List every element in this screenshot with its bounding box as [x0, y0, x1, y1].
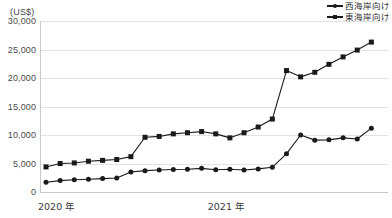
data-point-circle [355, 136, 360, 141]
data-point-circle [256, 166, 261, 171]
series-line [46, 42, 371, 167]
data-point-square [171, 131, 176, 136]
legend-item-east-coast[interactable]: 東海岸向け [327, 12, 390, 22]
y-axis-tick-label: 20,000 [8, 73, 36, 83]
legend-line-west-coast [327, 5, 343, 6]
series-lines [40, 21, 388, 192]
data-point-circle [171, 167, 176, 172]
plot-area [40, 21, 388, 192]
data-point-square [326, 62, 331, 67]
data-point-circle [114, 176, 119, 181]
data-point-circle [143, 168, 148, 173]
data-point-square [44, 164, 49, 169]
data-point-circle [44, 180, 49, 185]
data-point-circle [270, 165, 275, 170]
legend-label-east-coast: 東海岸向け [345, 12, 390, 22]
data-point-circle [157, 168, 162, 173]
data-point-square [298, 74, 303, 79]
y-axis-tick-label: 15,000 [8, 102, 36, 112]
data-point-square [72, 160, 77, 165]
data-point-square [185, 130, 190, 135]
data-point-square [86, 159, 91, 164]
data-point-circle [227, 167, 232, 172]
y-axis-tick-label: 0 [31, 187, 36, 197]
data-point-square [157, 134, 162, 139]
data-point-circle [100, 176, 105, 181]
data-point-square [143, 135, 148, 140]
data-point-circle [298, 133, 303, 138]
series-west-coast [44, 126, 374, 185]
data-point-square [355, 48, 360, 53]
legend-item-west-coast[interactable]: 西海岸向け [327, 1, 390, 11]
y-axis-tick-label: 25,000 [8, 45, 36, 55]
legend-line-east-coast [327, 16, 343, 17]
chart-legend: 西海岸向け 東海岸向け [327, 1, 390, 22]
data-point-square [242, 130, 247, 135]
data-point-square [284, 68, 289, 73]
data-point-circle [242, 168, 247, 173]
data-point-square [199, 129, 204, 134]
data-point-square [114, 157, 119, 162]
data-point-circle [199, 166, 204, 171]
data-point-square [341, 54, 346, 59]
data-point-circle [312, 138, 317, 143]
data-point-square [270, 117, 275, 122]
legend-label-west-coast: 西海岸向け [345, 1, 390, 11]
data-point-circle [284, 151, 289, 156]
data-point-circle [213, 167, 218, 172]
data-point-circle [72, 177, 77, 182]
data-point-circle [326, 137, 331, 142]
data-point-square [256, 125, 261, 130]
x-axis-tick-label: 2021 年 [208, 199, 245, 213]
data-point-circle [86, 177, 91, 182]
data-point-square [128, 154, 133, 159]
series-line [46, 128, 371, 182]
data-point-circle [185, 167, 190, 172]
y-axis-tick-labels: 30,00025,00020,00015,00010,0005,0000 [0, 0, 36, 218]
data-point-square [100, 158, 105, 163]
gridline [40, 192, 388, 193]
y-axis-tick-label: 30,000 [8, 16, 36, 26]
data-point-square [58, 161, 63, 166]
data-point-circle [128, 170, 133, 175]
data-point-circle [341, 135, 346, 140]
y-axis-tick-label: 10,000 [8, 130, 36, 140]
data-point-circle [58, 178, 63, 183]
data-point-square [213, 131, 218, 136]
data-point-square [227, 135, 232, 140]
y-axis-tick-label: 5,000 [13, 159, 36, 169]
series-east-coast [44, 40, 374, 170]
square-marker-icon [333, 15, 338, 20]
circle-marker-icon [333, 4, 338, 9]
x-axis-tick-label: 2020 年 [38, 199, 75, 213]
data-point-square [312, 70, 317, 75]
line-chart: 西海岸向け 東海岸向け (US$) 30,00025,00020,00015,0… [0, 0, 392, 218]
data-point-circle [369, 126, 374, 131]
data-point-square [369, 40, 374, 45]
